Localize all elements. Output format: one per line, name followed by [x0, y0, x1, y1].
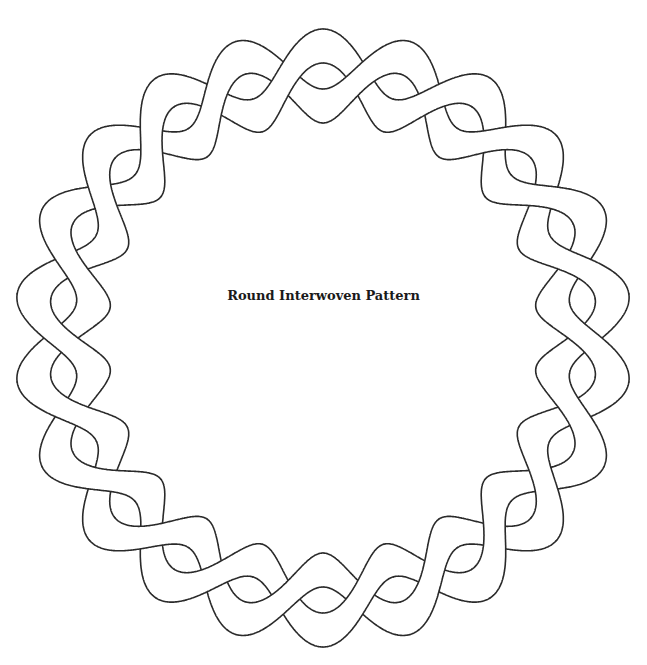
- interwoven-ring-diagram: [0, 0, 647, 665]
- diagram-title: Round Interwoven Pattern: [0, 288, 647, 303]
